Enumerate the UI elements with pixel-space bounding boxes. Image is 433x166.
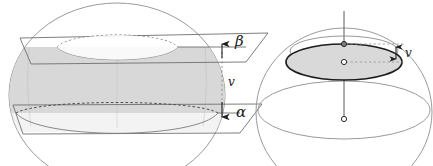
label-distance-v-right: v <box>405 46 412 60</box>
label-distance-v-left: v <box>228 75 235 89</box>
sphere-center-point[interactable] <box>341 116 346 121</box>
pole-point[interactable] <box>341 41 346 46</box>
label-beta: β <box>234 32 244 50</box>
geometry-figure: β α v <box>0 0 433 166</box>
cap-center-point[interactable] <box>341 59 346 64</box>
figure-canvas: β α v <box>0 0 433 166</box>
right-panel-sphere-with-cap: v <box>256 11 432 166</box>
label-alpha: α <box>236 103 246 121</box>
left-panel-spherical-zone: β α v <box>9 3 268 166</box>
